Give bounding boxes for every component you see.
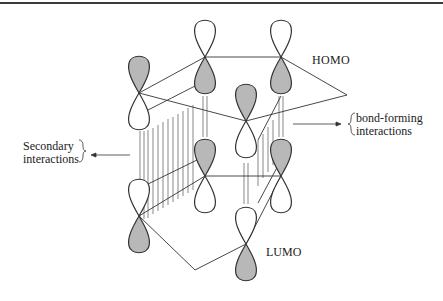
secondary-brace-icon bbox=[79, 140, 86, 162]
secondary-line2: interactions bbox=[23, 153, 79, 166]
lumo-label: LUMO bbox=[266, 246, 301, 259]
homo-label: HOMO bbox=[312, 54, 350, 67]
bond-forming-line2: interactions bbox=[356, 125, 423, 138]
lumo-skeleton bbox=[139, 160, 281, 270]
lumo-orbital-4 bbox=[236, 207, 257, 281]
homo-orbital-1 bbox=[129, 56, 150, 130]
bond-forming-arrow-icon bbox=[336, 122, 341, 126]
lumo-orbital-1 bbox=[129, 179, 150, 253]
homo-orbital-4 bbox=[236, 84, 257, 158]
bond-forming-brace-icon bbox=[348, 113, 355, 135]
secondary-label: Secondary interactions bbox=[23, 140, 79, 166]
bond-forming-label: bond-forming interactions bbox=[356, 112, 423, 138]
arrows bbox=[91, 122, 341, 157]
secondary-arrow-icon bbox=[91, 153, 96, 157]
